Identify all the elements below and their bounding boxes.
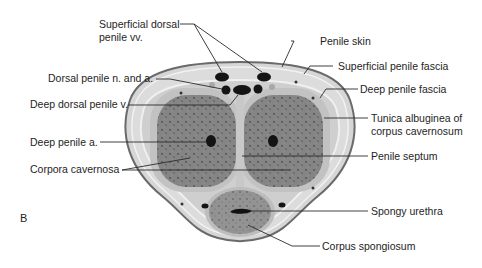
small-vessel [312,187,315,190]
deep-dorsal-vein [233,85,251,95]
small-vessel [279,203,286,208]
small-vessel [181,203,184,206]
penile-septum [236,92,244,192]
deep-penile-artery-left [206,135,216,147]
label-deep-penile-fascia: Deep penile fascia [360,83,446,96]
label-superficial-penile-fascia: Superficial penile fascia [338,60,448,73]
label-deep-penile-artery: Deep penile a. [30,136,98,149]
label-penile-skin: Penile skin [320,35,371,48]
small-vessel [295,81,298,84]
corpus-cavernosum-right [244,95,323,187]
label-tunica-albuginea: Tunica albuginea of corpus cavernosum [371,112,463,138]
label-superficial-dorsal-penile-veins: Superficial dorsal penile vv. [99,18,180,44]
dorsal-artery-left [222,86,231,95]
panel-letter: B [20,212,27,224]
label-dorsal-penile-nerve-artery: Dorsal penile n. and a. [48,72,153,85]
corpus-cavernosum-left [157,95,236,187]
deep-penile-artery-right [268,135,278,147]
small-vessel [312,97,315,100]
small-vessel [202,204,209,209]
leader-penile-skin [282,41,294,67]
label-corpora-cavernosa: Corpora cavernosa [30,163,119,176]
label-deep-dorsal-penile-vein: Deep dorsal penile v. [30,98,128,111]
label-spongy-urethra: Spongy urethra [371,205,443,218]
small-vessel [180,92,183,95]
dorsal-nerve-right [269,84,275,90]
superficial-dorsal-vein-left [215,73,229,82]
superficial-dorsal-vein-right [257,73,271,82]
label-penile-septum: Penile septum [371,150,438,163]
label-corpus-spongiosum: Corpus spongiosum [322,240,415,253]
dorsal-artery-right [254,85,263,94]
